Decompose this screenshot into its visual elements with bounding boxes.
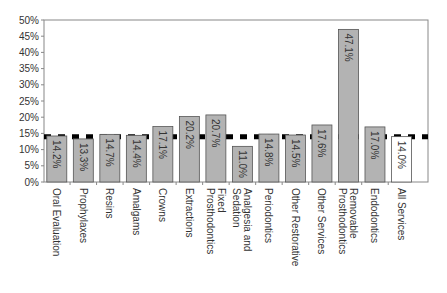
value-label: 14.2%: [51, 140, 62, 168]
x-category-label: Analgesia and: [242, 188, 253, 251]
value-label: 17.6%: [316, 129, 327, 157]
y-tick-label: 50%: [19, 15, 39, 26]
value-label: 14.8%: [263, 138, 274, 166]
x-category-label: Other Services: [316, 188, 327, 254]
y-tick-label: 0%: [25, 177, 40, 188]
y-tick-label: 30%: [19, 79, 39, 90]
value-label: 13.3%: [78, 143, 89, 171]
x-category-label: Sedation: [231, 188, 242, 227]
x-category-label: Prosthodontics: [205, 188, 216, 254]
x-category-label: Prophylaxes: [78, 188, 89, 243]
y-tick-label: 45%: [19, 31, 39, 42]
value-label: 17.0%: [369, 131, 380, 159]
value-label: 14.4%: [131, 139, 142, 167]
x-category-label: Oral Evaluation: [51, 188, 62, 256]
x-category-label: Amalgams: [131, 188, 142, 235]
value-label: 20.7%: [210, 119, 221, 147]
x-category-label: All Services: [396, 188, 407, 240]
x-category-label: Extractions: [184, 188, 195, 237]
y-tick-label: 5%: [25, 160, 40, 171]
y-tick-label: 35%: [19, 63, 39, 74]
x-category-label: Periodontics: [263, 188, 274, 243]
x-category-label: Resins: [104, 188, 115, 219]
y-tick-label: 40%: [19, 47, 39, 58]
x-category-label: Removable: [348, 188, 359, 239]
x-category-label: Prosthodontics: [337, 188, 348, 254]
value-label: 20.2%: [184, 121, 195, 149]
x-category-label: Crowns: [157, 188, 168, 222]
x-category-label: Fixed: [216, 188, 227, 212]
y-tick-label: 20%: [19, 112, 39, 123]
value-label: 11.0%: [237, 150, 248, 178]
value-label: 14.0%: [396, 141, 407, 169]
y-tick-label: 10%: [19, 144, 39, 155]
x-category-label: Other Restorative: [290, 188, 301, 267]
value-label: 14.7%: [104, 138, 115, 166]
value-label: 47.1%: [343, 33, 354, 61]
y-tick-label: 15%: [19, 128, 39, 139]
bar-chart: 0%5%10%15%20%25%30%35%40%45%50% Oral Eva…: [0, 0, 447, 293]
value-label: 14.5%: [290, 139, 301, 167]
y-tick-label: 25%: [19, 96, 39, 107]
value-label: 17.1%: [157, 131, 168, 159]
x-category-label: Endodontics: [369, 188, 380, 243]
